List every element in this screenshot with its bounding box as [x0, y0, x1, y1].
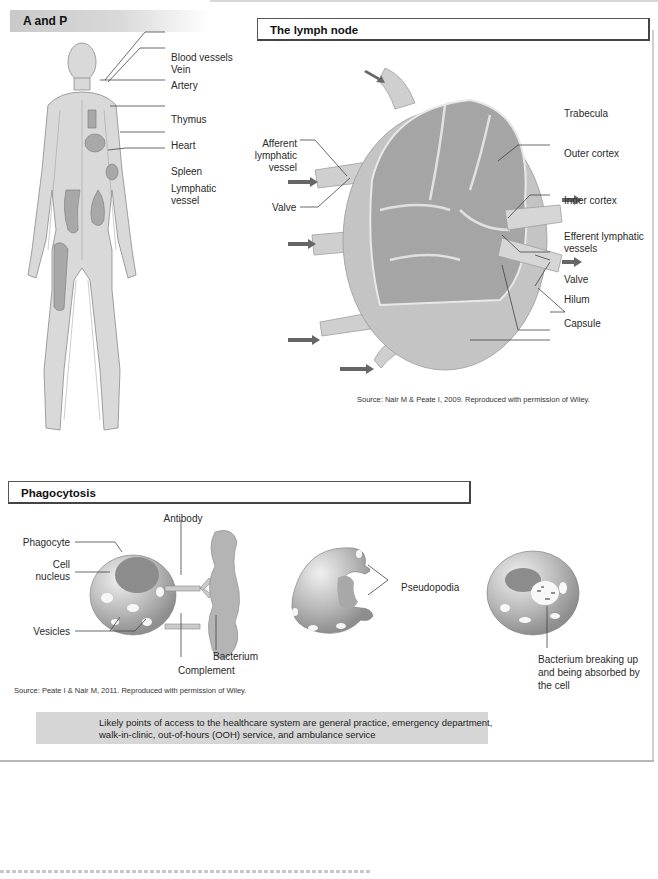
label-outer-cortex: Outer cortex [564, 148, 619, 160]
label-hilum: Hilum [564, 294, 590, 306]
label-spleen: Spleen [171, 166, 202, 178]
lymph-node-header-title: The lymph node [270, 24, 358, 36]
label-bacterium: Bacterium [213, 651, 258, 663]
label-lymphatic-vessel: Lymphatic vessel [171, 183, 231, 207]
phagocytosis-header-title: Phagocytosis [21, 487, 96, 499]
label-blood-vessels: Blood vessels [171, 52, 233, 64]
phagocytosis-section-header: Phagocytosis [8, 481, 471, 504]
label-valve-left: Valve [272, 202, 296, 214]
label-thymus: Thymus [171, 114, 207, 126]
label-phagocyte: Phagocyte [10, 537, 70, 549]
label-vein: Vein [171, 64, 190, 76]
label-trabecula: Trabecula [564, 108, 608, 120]
page-footer-line [0, 868, 370, 874]
label-capsule: Capsule [564, 318, 601, 330]
label-afferent-lymphatic-vessel: Afferent lymphatic vessel [233, 138, 297, 174]
anatomy-section-header: A and P [10, 10, 210, 32]
label-artery: Artery [171, 80, 198, 92]
label-inner-cortex: Inner cortex [564, 195, 617, 207]
lymph-node-section-header: The lymph node [257, 18, 650, 41]
phagocytosis-leader-lines [0, 505, 260, 665]
access-points-note-text: Likely points of access to the healthcar… [99, 717, 499, 741]
label-heart: Heart [171, 140, 195, 152]
label-efferent-lymphatic-vessels: Efferent lymphatic vessels [564, 231, 654, 255]
lymph-node-source-citation: Source: Nair M & Peate I, 2009. Reproduc… [357, 395, 590, 404]
label-antibody: Antibody [163, 513, 203, 525]
pseudopodia-leader-lines [368, 560, 408, 600]
access-points-note: Likely points of access to the healthcar… [36, 712, 488, 744]
anatomy-header-title: A and P [23, 14, 67, 28]
top-rule [210, 0, 658, 2]
label-cell-nucleus: Cell nucleus [24, 559, 70, 583]
label-pseudopodia: Pseudopodia [401, 582, 459, 594]
phagocyte-digesting-illustration [485, 548, 585, 648]
label-bacterium-breaking: Bacterium breaking up and being absorbed… [538, 653, 648, 692]
label-vesicles: Vesicles [10, 626, 70, 638]
label-complement: Complement [178, 665, 235, 677]
frame-bottom-rule [0, 760, 654, 762]
phagocytosis-source-citation: Source: Peate I & Nair M, 2011. Reproduc… [14, 686, 246, 695]
label-valve-right: Valve [564, 274, 588, 286]
